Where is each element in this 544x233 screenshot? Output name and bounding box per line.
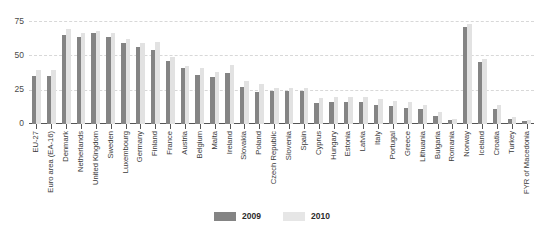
x-axis-labels: EU-27Euro area (EA-16)DenmarkNetherlands… — [29, 131, 534, 209]
x-axis-label-text: United Kingdom — [92, 131, 100, 185]
bar-group — [326, 21, 341, 124]
x-axis-label: Czech Republic — [267, 131, 282, 209]
x-axis-label-text: Portugal — [389, 131, 397, 159]
bar-group — [118, 21, 133, 124]
x-tick — [490, 124, 505, 130]
y-tick-label: 25 — [0, 85, 24, 93]
x-axis-label-text: France — [166, 131, 174, 155]
x-axis-label: Iceland — [475, 131, 490, 209]
x-axis-label-text: Greece — [404, 131, 412, 156]
x-tick — [237, 124, 252, 130]
x-axis-label: Denmark — [59, 131, 74, 209]
x-axis-label: France — [163, 131, 178, 209]
x-tick — [103, 124, 118, 130]
bar-2010 — [497, 105, 501, 124]
x-tick — [118, 124, 133, 130]
y-tick-label: 50 — [0, 51, 24, 59]
bar-2010 — [111, 33, 115, 124]
x-axis-label: Latvia — [356, 131, 371, 209]
x-axis-label: Germany — [133, 131, 148, 209]
bar-group — [490, 21, 505, 124]
legend-item-2009[interactable]: 2009 — [214, 212, 261, 221]
bar-group — [282, 21, 297, 124]
bar-group — [341, 21, 356, 124]
x-axis-label-text: Germany — [136, 131, 144, 162]
x-tick — [252, 124, 267, 130]
bar-2010 — [438, 112, 442, 124]
bar-group — [371, 21, 386, 124]
bar-2010 — [467, 24, 471, 124]
x-axis-label-text: Denmark — [62, 131, 70, 162]
x-axis-label: Hungary — [326, 131, 341, 209]
bar-2010 — [334, 97, 338, 124]
bar-2010 — [319, 98, 323, 124]
bar-group — [237, 21, 252, 124]
x-tick — [44, 124, 59, 130]
x-axis-label-text: Austria — [181, 131, 189, 155]
legend-swatch-icon — [214, 212, 236, 221]
bar-2010 — [200, 68, 204, 124]
bar-group — [207, 21, 222, 124]
x-tick — [460, 124, 475, 130]
x-axis-label-text: Malta — [211, 131, 219, 150]
bar-2010 — [274, 88, 278, 124]
y-tick-label: 75 — [0, 17, 24, 25]
x-axis-label: Cyprus — [311, 131, 326, 209]
x-tick — [222, 124, 237, 130]
x-tick — [207, 124, 222, 130]
x-axis-label-text: EU-27 — [32, 131, 40, 153]
x-axis-label: Malta — [207, 131, 222, 209]
x-tick — [519, 124, 534, 130]
x-axis-label-text: Hungary — [330, 131, 338, 160]
x-axis-label-text: Spain — [300, 131, 308, 150]
x-tick — [415, 124, 430, 130]
bar-2010 — [408, 102, 412, 124]
y-tick-label: 0 — [0, 119, 24, 127]
bar-2010 — [170, 57, 174, 124]
x-axis-label-text: Cyprus — [315, 131, 323, 155]
bar-2010 — [304, 88, 308, 124]
bar-group — [59, 21, 74, 124]
x-axis-label-text: Netherlands — [77, 131, 85, 172]
x-axis-label: Sweden — [103, 131, 118, 209]
bar-series-container — [29, 21, 534, 124]
bar-2010 — [289, 88, 293, 124]
bar-group — [475, 21, 490, 124]
chart-legend: 2009 2010 — [0, 212, 544, 221]
x-axis-label: Slovakia — [237, 131, 252, 209]
bar-2010 — [96, 31, 100, 124]
x-tick — [505, 124, 520, 130]
x-axis-label: Croatia — [490, 131, 505, 209]
legend-item-2010[interactable]: 2010 — [283, 212, 330, 221]
x-tick — [282, 124, 297, 130]
x-tick — [178, 124, 193, 130]
x-axis-label-text: Lithuania — [419, 131, 427, 162]
bar-2010 — [393, 101, 397, 124]
x-axis-label: Euro area (EA-16) — [44, 131, 59, 209]
bar-group — [88, 21, 103, 124]
x-tick — [341, 124, 356, 130]
bar-2010 — [348, 97, 352, 124]
x-tick — [386, 124, 401, 130]
x-axis-label-text: Bulgaria — [434, 131, 442, 159]
x-tick — [326, 124, 341, 130]
x-axis-label: Finland — [148, 131, 163, 209]
bar-group — [133, 21, 148, 124]
bar-group — [267, 21, 282, 124]
bar-2010 — [81, 33, 85, 124]
x-axis-label: Romania — [445, 131, 460, 209]
x-axis-label: Austria — [178, 131, 193, 209]
bar-2010 — [140, 43, 144, 124]
bar-2010 — [259, 84, 263, 124]
x-axis-label-text: Czech Republic — [270, 131, 278, 184]
bar-2010 — [244, 81, 248, 124]
bar-group — [148, 21, 163, 124]
bar-group — [519, 21, 534, 124]
bar-group — [445, 21, 460, 124]
legend-label: 2010 — [311, 212, 330, 221]
x-tick — [356, 124, 371, 130]
x-axis-label: EU-27 — [29, 131, 44, 209]
x-axis-label-text: Finland — [151, 131, 159, 156]
x-tick — [192, 124, 207, 130]
x-tick — [371, 124, 386, 130]
